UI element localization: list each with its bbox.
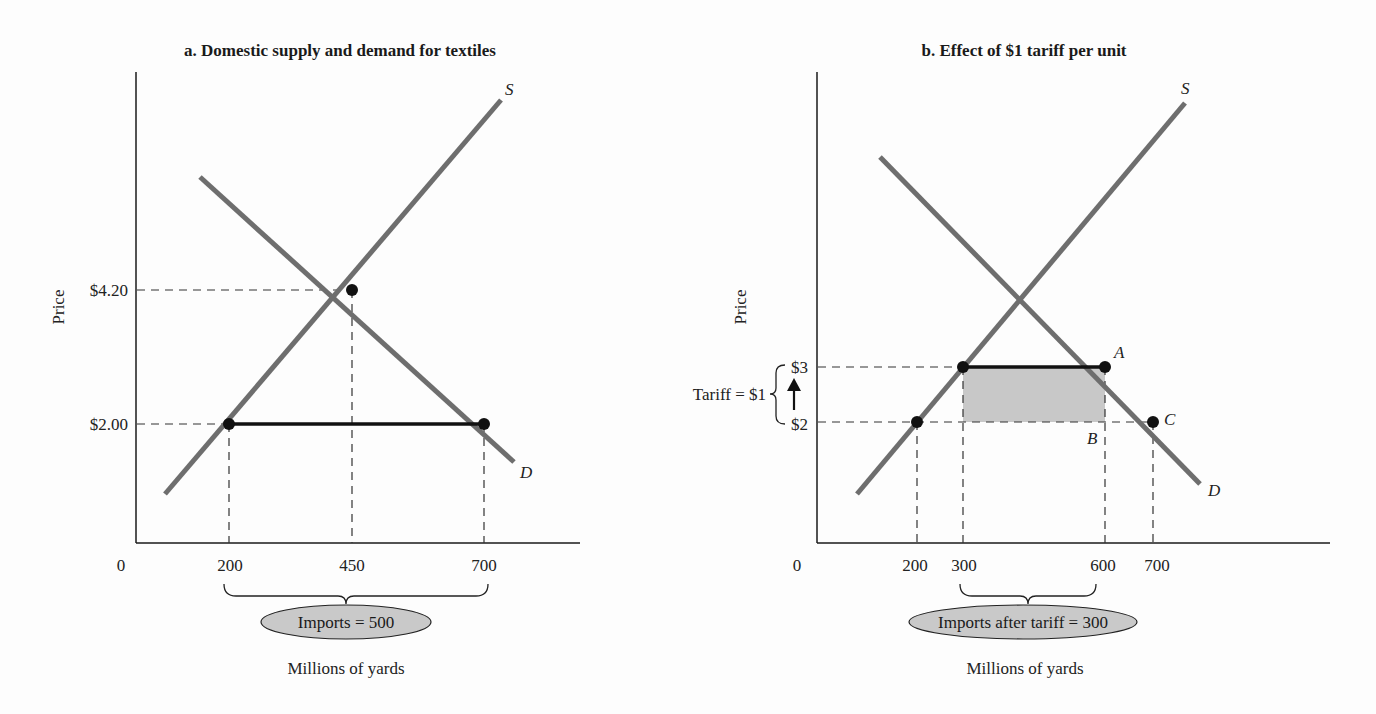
- panel-b-tariff-brace: [770, 365, 785, 424]
- panel-b-point-supply-200: [911, 416, 923, 428]
- panel-a-y-tick-200: $2.00: [90, 415, 128, 434]
- panel-b-x-tick-300: 300: [951, 556, 977, 575]
- panel-a-point-supply-200: [223, 418, 235, 430]
- panel-b: b. Effect of $1 tariff per unit Price $3…: [693, 41, 1330, 678]
- panel-b-imports-label: Imports after tariff = 300: [938, 613, 1108, 632]
- panel-b-point-c: [1147, 416, 1159, 428]
- panel-b-point-c-label: C: [1164, 410, 1176, 429]
- panel-b-tariff-revenue-area: [963, 367, 1105, 422]
- panel-a-guides: [137, 290, 484, 543]
- panel-a-x-tick-700: 700: [471, 556, 497, 575]
- panel-b-imports-brace: [960, 584, 1096, 604]
- panel-a-demand-label: D: [519, 463, 533, 482]
- panel-b-y-label: Price: [731, 290, 750, 325]
- panel-a-x-label: Millions of yards: [287, 659, 404, 678]
- panel-a-point-demand-700: [478, 418, 490, 430]
- panel-a-point-equilibrium: [346, 284, 358, 296]
- panel-a-title: a. Domestic supply and demand for textil…: [184, 41, 496, 60]
- panel-a-imports-brace: [224, 584, 488, 604]
- panel-b-point-a-label: A: [1113, 343, 1125, 362]
- arrow-up-icon: [787, 378, 801, 391]
- panel-b-x-tick-600: 600: [1090, 556, 1116, 575]
- panel-b-supply-label: S: [1181, 79, 1190, 98]
- panel-b-demand-label: D: [1207, 481, 1221, 500]
- panel-a-y-label: Price: [49, 290, 68, 325]
- figure: a. Domestic supply and demand for textil…: [0, 0, 1376, 714]
- panel-a-x-tick-450: 450: [339, 556, 365, 575]
- panel-b-tariff-label: Tariff = $1: [693, 385, 766, 404]
- panel-b-point-b-label: B: [1087, 429, 1098, 448]
- panel-a-origin-label: 0: [117, 556, 126, 575]
- panel-a-supply-curve: [165, 100, 501, 494]
- panel-b-title: b. Effect of $1 tariff per unit: [921, 41, 1126, 60]
- panel-b-y-tick-3: $3: [791, 358, 808, 377]
- panel-a-demand-curve: [200, 177, 514, 462]
- panel-b-y-tick-2: $2: [791, 415, 808, 434]
- panel-b-point-a: [1099, 361, 1111, 373]
- panel-b-point-supply-300: [957, 361, 969, 373]
- panel-b-origin-label: 0: [793, 556, 802, 575]
- panel-b-x-label: Millions of yards: [966, 659, 1083, 678]
- panel-b-x-tick-700: 700: [1144, 556, 1170, 575]
- panel-a-x-tick-200: 200: [217, 556, 243, 575]
- panel-b-supply-curve: [857, 103, 1185, 494]
- chart-svg: a. Domestic supply and demand for textil…: [0, 0, 1376, 714]
- panel-a-supply-label: S: [505, 80, 514, 99]
- panel-a-imports-label: Imports = 500: [298, 613, 394, 632]
- panel-b-x-tick-200: 200: [902, 556, 928, 575]
- panel-a-y-tick-420: $4.20: [90, 281, 128, 300]
- panel-a: a. Domestic supply and demand for textil…: [49, 41, 580, 678]
- panel-b-demand-curve: [880, 157, 1200, 484]
